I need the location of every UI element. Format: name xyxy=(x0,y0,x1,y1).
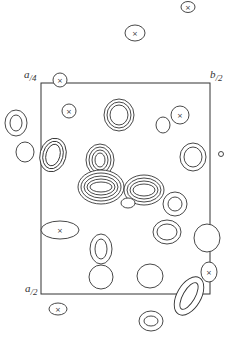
contour-peak xyxy=(194,224,220,252)
label-a-quarter: a/4 xyxy=(24,68,37,83)
contour-peak: × xyxy=(49,303,67,315)
contour-peak xyxy=(90,234,112,264)
contour-peak xyxy=(78,170,124,204)
contour-peak: × xyxy=(62,104,76,118)
atom-position-marker: × xyxy=(206,269,212,277)
label-b-half: b/2 xyxy=(210,68,223,83)
contour-map: ×××××××× a/4 b/2 a/2 xyxy=(0,0,229,345)
contour-map-figure: ×××××××× a/4 b/2 a/2 xyxy=(0,0,229,345)
contour-peak: × xyxy=(53,73,67,87)
atom-position-marker: × xyxy=(177,112,183,120)
contour-peak xyxy=(139,311,163,331)
atom-position-marker: × xyxy=(57,227,63,235)
atom-position-marker: × xyxy=(132,30,138,38)
contour-peak xyxy=(89,265,113,289)
contour-peak: × xyxy=(201,262,217,282)
contour-peak xyxy=(156,117,170,133)
contour-peak xyxy=(5,110,27,136)
contour-peak xyxy=(104,99,134,131)
label-a-half: a/2 xyxy=(25,282,38,297)
atom-position-marker: × xyxy=(66,108,72,116)
contour-peak xyxy=(153,220,181,244)
contour-peak: × xyxy=(181,2,195,13)
contour-peak xyxy=(163,192,187,216)
contour-peak xyxy=(16,142,34,162)
contour-peak xyxy=(137,264,163,288)
contour-peak: × xyxy=(171,106,189,124)
atom-position-marker: × xyxy=(185,4,191,12)
atom-position-marker: × xyxy=(57,77,63,85)
contour-peak xyxy=(121,198,135,208)
contour-peak: × xyxy=(41,221,79,239)
atom-position-marker: × xyxy=(55,306,61,314)
contour-peak xyxy=(219,152,224,157)
contour-peak: × xyxy=(125,25,145,41)
contour-peak xyxy=(180,143,206,171)
